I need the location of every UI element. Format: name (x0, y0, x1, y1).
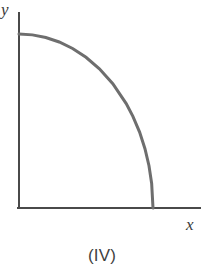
curve-series-1 (19, 34, 153, 208)
x-axis-label: x (186, 216, 194, 233)
figure-caption: (IV) (0, 247, 204, 264)
y-axis-label: y (1, 1, 9, 18)
plot-area (0, 0, 204, 240)
figure-panel: y x (IV) (0, 0, 204, 278)
